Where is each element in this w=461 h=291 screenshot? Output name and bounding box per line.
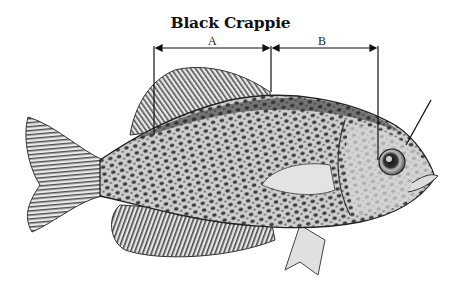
black-crappie-illustration xyxy=(0,0,461,291)
eye xyxy=(379,149,405,175)
caudal-fin xyxy=(26,117,103,232)
pelvic-fin xyxy=(285,225,325,275)
pointer-line xyxy=(406,100,431,145)
